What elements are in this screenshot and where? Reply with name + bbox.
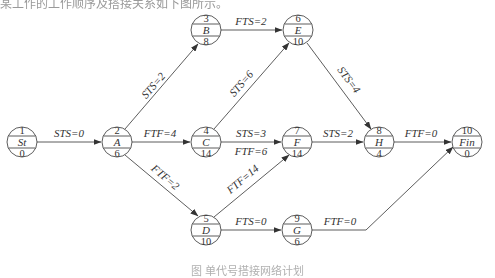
label-c-e: STS=6 — [227, 68, 256, 99]
node-f-id: 7 — [294, 125, 299, 136]
label-a-c: FTF=4 — [143, 127, 177, 139]
node-d-duration: 10 — [201, 236, 212, 247]
label-d-g: FTS=0 — [234, 215, 267, 227]
figure-caption: 图 单代号搭接网络计划 — [0, 262, 495, 278]
label-h-fin: FTF=0 — [404, 127, 438, 139]
node-a-name: A — [113, 136, 121, 148]
node-fin-name: Fin — [458, 136, 475, 148]
label-c-f-sts: STS=3 — [236, 127, 267, 139]
node-b-duration: 8 — [203, 36, 208, 47]
node-e-name: E — [294, 24, 302, 36]
label-st-a: STS=0 — [54, 127, 85, 139]
node-f-duration: 14 — [292, 148, 303, 159]
node-g-name: G — [293, 224, 301, 236]
node-a-duration: 6 — [114, 148, 119, 159]
node-h-id: 8 — [376, 125, 381, 136]
node-e-id: 6 — [295, 13, 300, 24]
label-e-h: STS=4 — [335, 64, 363, 96]
edge-a-d — [125, 155, 198, 216]
node-e-duration: 10 — [293, 36, 304, 47]
node-a-id: 2 — [114, 125, 119, 136]
edge-a-b — [125, 44, 198, 129]
node-c-duration: 14 — [201, 148, 212, 159]
node-g-duration: 6 — [294, 236, 299, 247]
node-c-name: C — [202, 136, 210, 148]
node-fin-id: 10 — [462, 125, 473, 136]
label-d-f: FTF=14 — [223, 162, 261, 197]
node-st-duration: 0 — [19, 148, 24, 159]
node-d-id: 5 — [203, 213, 208, 224]
node-fin-duration: 0 — [464, 148, 469, 159]
node-b-id: 3 — [203, 13, 208, 24]
label-f-h: STS=2 — [323, 127, 354, 139]
node-d-name: D — [201, 224, 210, 236]
node-st-name: St — [18, 136, 28, 148]
node-c-id: 4 — [203, 125, 209, 136]
label-g-fin: FTF=0 — [323, 215, 357, 227]
node-h-duration: 4 — [376, 148, 382, 159]
node-h-name: H — [374, 136, 384, 148]
node-g-id: 9 — [294, 213, 299, 224]
node-st-id: 1 — [19, 125, 24, 136]
node-f-name: F — [293, 136, 301, 148]
label-a-d: FTF=2 — [149, 161, 183, 192]
label-c-f-ftf: FTF=6 — [234, 145, 268, 157]
node-b-name: B — [203, 24, 210, 36]
edge-c-e — [214, 43, 289, 129]
label-b-e: FTS=2 — [234, 15, 267, 27]
